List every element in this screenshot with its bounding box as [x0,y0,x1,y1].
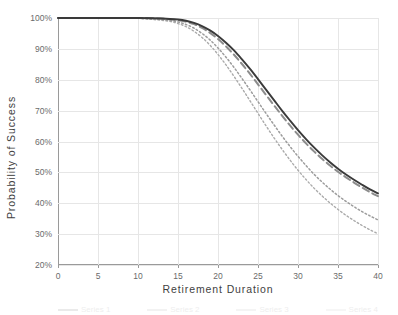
x-tick-mark [378,265,379,268]
x-tick-label: 20 [213,271,222,281]
legend-swatch [236,309,256,311]
x-tick-mark [178,265,179,268]
y-tick-label: 90% [35,44,52,54]
legend-label: Series 1 [81,305,110,314]
legend-item: Series 3 [236,305,288,314]
y-tick-label: 20% [35,260,52,270]
legend-swatch [326,309,346,311]
y-tick-label: 80% [35,75,52,85]
series-line [58,18,378,234]
legend-swatch [147,309,167,311]
x-axis-title: Retirement Duration [58,283,378,295]
x-tick-label: 25 [253,271,262,281]
x-tick-label: 35 [333,271,342,281]
x-tick-mark [258,265,259,268]
series-line [58,18,378,220]
legend-item: Series 2 [147,305,199,314]
x-tick-mark [298,265,299,268]
x-tick-mark [98,265,99,268]
legend-item: Series 1 [58,305,110,314]
y-tick-label: 40% [35,198,52,208]
x-tick-label: 30 [293,271,302,281]
series-line [58,18,378,193]
legend: Series 1Series 2Series 3Series 4 [58,305,378,315]
x-tick-label: 0 [56,271,61,281]
legend-label: Series 3 [259,305,288,314]
x-tick-label: 10 [133,271,142,281]
legend-label: Series 4 [349,305,378,314]
x-tick-label: 40 [373,271,382,281]
x-tick-mark [138,265,139,268]
y-tick-label: 30% [35,229,52,239]
x-tick-label: 5 [96,271,101,281]
x-tick-label: 15 [173,271,182,281]
y-tick-label: 100% [30,13,52,23]
x-tick-mark [218,265,219,268]
plot-area: 20%30%40%50%60%70%80%90%100% 05101520253… [58,18,378,265]
y-axis-title: Probability of Success [0,0,22,315]
legend-label: Series 2 [170,305,199,314]
chart-screenshot: Probability of Success 20%30%40%50%60%70… [0,0,398,315]
x-tick-mark [58,265,59,268]
y-tick-label: 60% [35,137,52,147]
legend-swatch [58,309,78,311]
gridline-vertical [378,18,379,265]
series-line [58,18,378,196]
x-tick-mark [338,265,339,268]
series-lines [58,18,378,265]
y-tick-label: 70% [35,106,52,116]
legend-item: Series 4 [326,305,378,314]
y-tick-label: 50% [35,167,52,177]
